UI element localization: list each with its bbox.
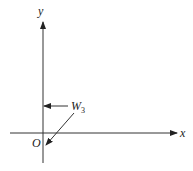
y-axis-label: y — [37, 4, 44, 18]
x-axis-label: x — [179, 126, 186, 140]
vector-w3-label: W3 — [71, 99, 85, 115]
origin-label: O — [32, 136, 41, 150]
diagram-canvas: y x O W3 — [0, 0, 193, 171]
diagonal-leader-arrow — [46, 113, 74, 145]
